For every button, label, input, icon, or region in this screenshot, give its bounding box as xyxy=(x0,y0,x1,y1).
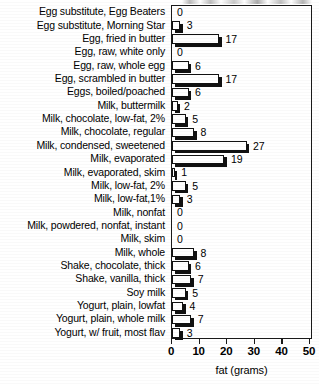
bar-row: 8 xyxy=(172,246,311,259)
bar xyxy=(172,195,180,204)
bar xyxy=(172,315,191,324)
bar-row: 6 xyxy=(172,86,311,99)
bar-row: 0 xyxy=(172,233,311,246)
bar xyxy=(172,88,189,97)
bar xyxy=(172,101,178,110)
category-label: Milk, chocolate, low-fat, 2% xyxy=(0,113,165,124)
bar-body xyxy=(172,168,175,177)
category-label: Milk, low-fat,1% xyxy=(0,193,165,204)
bar-body xyxy=(172,141,247,150)
x-axis-title: fat (grams) xyxy=(171,364,312,377)
bar-row: 0 xyxy=(172,46,311,59)
category-label: Shake, chocolate, thick xyxy=(0,260,165,271)
x-tick xyxy=(254,339,255,344)
bar-value-label: 17 xyxy=(225,74,236,85)
bar-body xyxy=(172,61,189,70)
category-label: Yogurt, plain, lowfat xyxy=(0,300,165,311)
bar-row: 19 xyxy=(172,153,311,166)
bar xyxy=(172,275,191,284)
category-label: Milk, low-fat, 2% xyxy=(0,180,165,191)
category-label: Soy milk xyxy=(0,287,165,298)
x-tick-label: 0 xyxy=(156,345,186,358)
category-label: Egg, raw, whole egg xyxy=(0,60,165,71)
category-label: Egg, raw, white only xyxy=(0,46,165,57)
category-label: Egg, fried in butter xyxy=(0,33,165,44)
bar xyxy=(172,141,247,150)
bar-body xyxy=(172,275,191,284)
category-label: Milk, evaporated, skim xyxy=(0,167,165,178)
x-axis-ticks xyxy=(171,339,312,344)
fat-grams-bar-chart: Egg substitute, Egg BeatersEgg substitut… xyxy=(0,0,319,384)
bar-body xyxy=(172,88,189,97)
x-tick xyxy=(281,339,282,344)
bar-body xyxy=(172,155,224,164)
bar xyxy=(172,168,175,177)
category-label: Milk, whole xyxy=(0,247,165,258)
bar xyxy=(172,248,194,257)
x-tick-label: 50 xyxy=(294,345,319,358)
bar-row: 3 xyxy=(172,327,311,340)
bar-value-label: 8 xyxy=(201,127,207,138)
bar-value-label: 7 xyxy=(198,314,204,325)
category-label: Shake, vanilla, thick xyxy=(0,273,165,284)
bar xyxy=(172,261,189,270)
bar-value-label: 6 xyxy=(195,261,201,272)
bar-value-label: 0 xyxy=(177,221,183,232)
bar-body xyxy=(172,261,189,270)
bar-value-label: 17 xyxy=(225,34,236,45)
category-labels: Egg substitute, Egg BeatersEgg substitut… xyxy=(0,5,168,339)
bar-body xyxy=(172,114,186,123)
category-label: Milk, evaporated xyxy=(0,153,165,164)
bar-value-label: 0 xyxy=(177,207,183,218)
bar-value-label: 3 xyxy=(187,328,193,339)
bar-body xyxy=(172,315,191,324)
bar-row: 7 xyxy=(172,273,311,286)
category-label: Egg, scrambled in butter xyxy=(0,73,165,84)
category-label: Milk, nonfat xyxy=(0,207,165,218)
x-tick-label: 30 xyxy=(239,345,269,358)
plot-area: 03170617625827191530008675473 xyxy=(171,5,312,339)
bar xyxy=(172,74,219,83)
x-tick xyxy=(309,339,310,344)
bar-value-label: 0 xyxy=(177,47,183,58)
bar-row: 4 xyxy=(172,300,311,313)
category-label: Milk, chocolate, regular xyxy=(0,126,165,137)
category-label: Egg substitute, Morning Star xyxy=(0,20,165,31)
bar-value-label: 2 xyxy=(184,101,190,112)
bar-value-label: 6 xyxy=(195,87,201,98)
bar-row: 3 xyxy=(172,19,311,32)
bar-row: 8 xyxy=(172,126,311,139)
bar-row: 5 xyxy=(172,113,311,126)
bar-row: 17 xyxy=(172,33,311,46)
bar-body xyxy=(172,34,219,43)
bar xyxy=(172,288,186,297)
x-axis-tick-labels: 01020304050 xyxy=(0,345,319,359)
category-label: Eggs, boiled/poached xyxy=(0,86,165,97)
bar-row: 0 xyxy=(172,6,311,19)
bar-value-label: 8 xyxy=(201,248,207,259)
bar-value-label: 3 xyxy=(187,20,193,31)
bar-row: 6 xyxy=(172,260,311,273)
bar-body xyxy=(172,288,186,297)
bar-body xyxy=(172,328,180,337)
bar-row: 5 xyxy=(172,287,311,300)
bar-body xyxy=(172,128,194,137)
category-label: Yogurt, plain, whole milk xyxy=(0,313,165,324)
bar-value-label: 5 xyxy=(192,181,198,192)
bar-value-label: 3 xyxy=(187,194,193,205)
bar xyxy=(172,34,219,43)
bar-value-label: 7 xyxy=(198,274,204,285)
bar-value-label: 6 xyxy=(195,61,201,72)
bar-body xyxy=(172,248,194,257)
x-tick xyxy=(171,339,172,344)
bar-value-label: 19 xyxy=(231,154,242,165)
bar-value-label: 5 xyxy=(192,114,198,125)
bar-value-label: 27 xyxy=(253,141,264,152)
category-label: Milk, condensed, sweetened xyxy=(0,140,165,151)
bar-body xyxy=(172,195,180,204)
category-label: Egg substitute, Egg Beaters xyxy=(0,6,165,17)
bar xyxy=(172,181,186,190)
bar-value-label: 5 xyxy=(192,288,198,299)
bar xyxy=(172,328,180,337)
bar-row: 0 xyxy=(172,220,311,233)
